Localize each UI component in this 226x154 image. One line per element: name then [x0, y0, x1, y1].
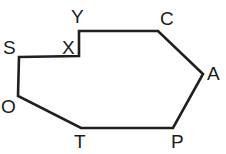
vertex-label-O: O: [1, 97, 16, 116]
vertex-label-T: T: [74, 132, 86, 151]
vertex-label-P: P: [171, 132, 184, 151]
polygon-outline: [18, 31, 203, 128]
polygon-shape: [0, 0, 226, 154]
geometry-figure: S X Y C A P T O: [0, 0, 226, 154]
vertex-label-Y: Y: [71, 7, 84, 26]
vertex-label-C: C: [160, 9, 174, 28]
vertex-label-A: A: [207, 64, 220, 83]
vertex-label-S: S: [3, 38, 16, 57]
vertex-label-X: X: [62, 38, 75, 57]
